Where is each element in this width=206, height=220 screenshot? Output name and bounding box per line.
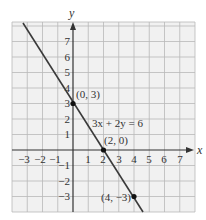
y-tick: 5 [65,66,71,78]
x-tick: 6 [161,153,167,165]
y-tick: 2 [65,113,71,125]
x-tick: 3 [116,153,122,165]
point-label-4-neg3: (4, −3) [101,191,131,204]
y-tick: 3 [65,97,71,109]
point-label-0-3: (0, 3) [76,88,100,101]
point-0-3 [70,101,75,106]
x-tick: 5 [146,153,152,165]
equation-label: 3x + 2y = 6 [92,117,143,129]
y-tick: −3 [58,190,70,202]
x-tick: 2 [100,153,106,165]
x-tick: 7 [177,153,183,165]
y-tick: −1 [58,159,70,171]
coordinate-plane: x y −3 −2 −1 1 2 3 4 5 6 7 7 6 5 4 3 2 1… [0,0,206,220]
point-2-0 [101,147,106,152]
y-tick: −2 [58,175,70,187]
x-tick: −2 [34,153,46,165]
y-tick: 6 [65,51,71,63]
y-axis-label: y [68,6,75,20]
x-axis-label: x [196,143,203,157]
y-tick: 1 [65,128,71,140]
point-label-2-0: (2, 0) [104,134,128,147]
point-4-neg3 [131,194,136,199]
x-tick: −3 [18,153,30,165]
x-tick: 1 [85,153,91,165]
x-tick: 4 [131,153,137,165]
y-tick: 7 [65,35,71,47]
